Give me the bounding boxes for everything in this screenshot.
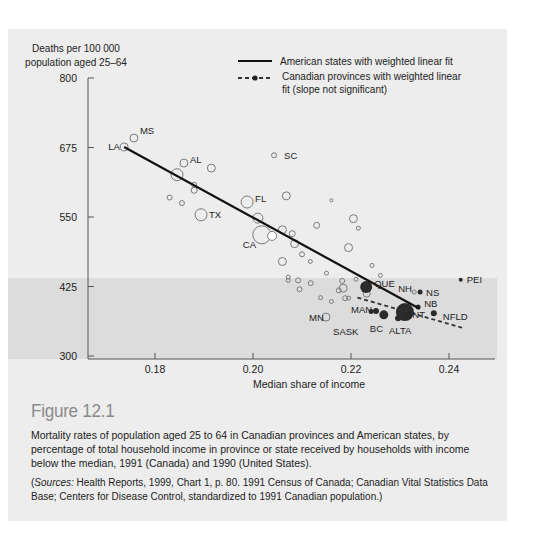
canadian-province-marker (431, 310, 437, 316)
us-state-marker (272, 153, 277, 158)
us-state-marker (180, 159, 188, 167)
us-state-marker (370, 263, 374, 267)
point-label-la: LA (108, 141, 120, 152)
y-tick-label: 550 (59, 211, 77, 223)
point-label-ca: CA (243, 239, 257, 250)
point-label-man: MAN (351, 304, 372, 315)
x-tick-label: 0.22 (341, 363, 362, 375)
canadian-province-marker (395, 315, 401, 321)
point-label-nb: NB (424, 298, 437, 309)
us-state-marker (349, 215, 357, 223)
point-label-ns: NS (426, 287, 439, 298)
point-label-alta: ALTA (389, 325, 412, 336)
us-state-marker (314, 222, 320, 228)
y-tick-label: 800 (59, 72, 77, 84)
us-state-marker (300, 252, 305, 257)
point-label-fl: FL (255, 193, 266, 204)
point-label-al: AL (190, 154, 202, 165)
us-state-marker (167, 195, 172, 200)
canadian-province-marker (379, 310, 388, 319)
x-axis-title: Median share of income (253, 378, 365, 390)
point-label-sask: SASK (333, 326, 359, 337)
figure-caption: Figure 12.1 Mortality rates of populatio… (31, 400, 501, 504)
point-label-ont: ONT (405, 309, 425, 320)
us-state-marker (278, 257, 286, 265)
legend: American states with weighted linear fit… (238, 56, 462, 95)
point-label-nfld: NFLD (443, 311, 468, 322)
canadian-province-marker (459, 278, 463, 282)
us-state-marker (179, 201, 184, 206)
us-state-marker (356, 226, 360, 230)
figure-sources: (Sources: Health Reports, 1999, Chart 1,… (31, 476, 501, 504)
x-tick-label: 0.24 (439, 363, 460, 375)
us-state-marker (325, 271, 329, 275)
y-axis-title-line-1: Deaths per 100 000 (32, 43, 120, 54)
point-label-ms: MS (140, 125, 154, 136)
x-tick-label: 0.20 (243, 363, 264, 375)
legend-entry-canadian-line-1: Canadian provinces with weighted linear (282, 71, 462, 82)
point-label-que: QUE (374, 278, 395, 289)
us-state-marker (130, 134, 138, 142)
point-label-nh: NH (398, 283, 412, 294)
point-label-mn: MN (309, 312, 324, 323)
us-state-marker (268, 231, 277, 240)
us-state-marker (345, 244, 353, 252)
y-tick-label: 300 (59, 350, 77, 362)
legend-entry-canadian-line-2: fit (slope not significant) (282, 84, 387, 95)
us-state-marker (241, 196, 253, 208)
us-state-marker (330, 199, 333, 202)
us-state-marker (282, 192, 290, 200)
canadian-province-marker (373, 308, 379, 314)
y-axis-title: Deaths per 100 000 population aged 25–64 (25, 43, 127, 68)
us-state-marker (207, 164, 215, 172)
x-tick-label: 0.18 (145, 363, 166, 375)
canadian-province-marker (418, 290, 423, 295)
legend-dot-icon (252, 75, 257, 80)
point-label-bc: BC (370, 323, 383, 334)
us-state-marker (289, 231, 295, 237)
legend-entry-american: American states with weighted linear fit (280, 56, 453, 67)
us-state-marker (195, 209, 207, 221)
figure-title: Figure 12.1 (31, 400, 454, 422)
us-state-marker (378, 273, 382, 277)
us-state-marker (191, 187, 197, 193)
point-label-sc: SC (284, 150, 297, 161)
sources-text: Health Reports, 1999, Chart 1, p. 80. 19… (31, 477, 488, 502)
figure-description: Mortality rates of population aged 25 to… (31, 428, 491, 470)
y-axis-title-line-2: population aged 25–64 (25, 57, 127, 68)
y-tick-label: 675 (59, 142, 77, 154)
us-state-marker (308, 259, 312, 263)
y-tick-label: 425 (59, 281, 77, 293)
point-label-pei: PEI (467, 274, 482, 285)
sources-label: Sources: (34, 477, 73, 488)
point-label-tx: TX (209, 209, 222, 220)
